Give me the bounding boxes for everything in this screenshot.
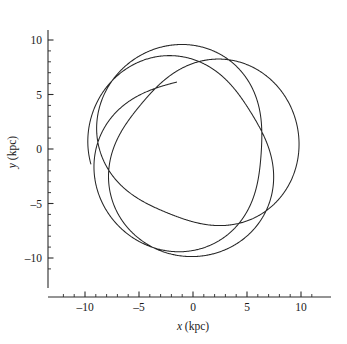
tick-label-group: –10–505101050–5–10 [24, 34, 307, 313]
plot-canvas: –10–505101050–5–10 x (kpc) y (kpc) [0, 0, 347, 344]
x-tick-label: 5 [244, 301, 250, 313]
y-tick-label: –10 [24, 252, 43, 264]
x-tick-label: 10 [295, 301, 307, 313]
x-tick-label: 0 [190, 301, 196, 313]
y-tick-label: 5 [36, 89, 42, 101]
y-tick-label: –5 [30, 198, 43, 210]
x-tick-label: –10 [75, 301, 94, 313]
orbit-curve-group [88, 44, 299, 256]
y-axis-title: y (kpc) [6, 136, 19, 169]
orbit-figure: –10–505101050–5–10 x (kpc) y (kpc) [0, 0, 347, 344]
y-tick-label: 0 [36, 143, 42, 155]
x-axis-title: x (kpc) [176, 320, 209, 333]
y-tick-label: 10 [31, 34, 43, 46]
x-tick-label: –5 [132, 301, 145, 313]
rosette-orbit-path [88, 44, 299, 256]
